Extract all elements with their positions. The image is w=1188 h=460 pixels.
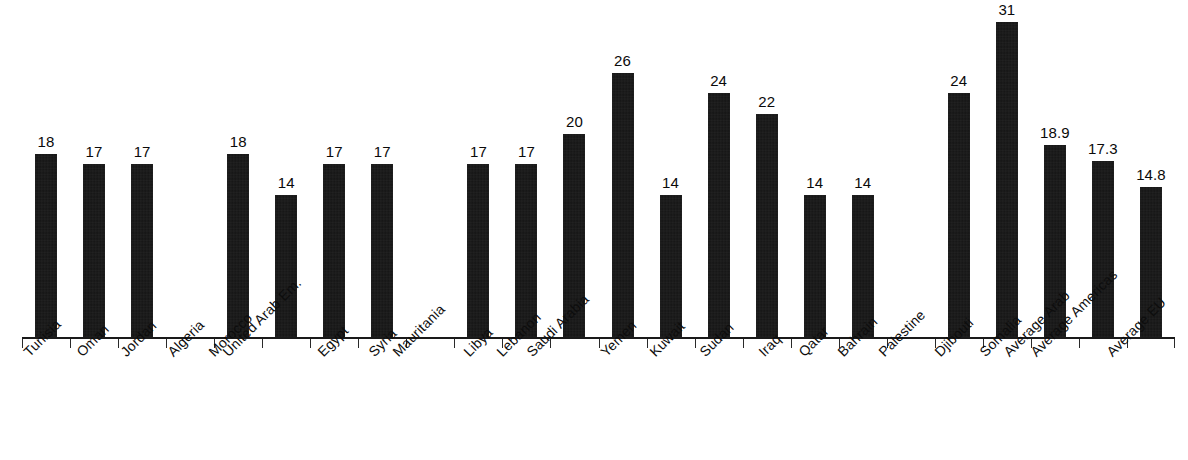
bar[interactable] [660, 195, 682, 337]
bar-value-label: 17 [86, 144, 103, 159]
bar-value-label: 24 [950, 73, 967, 88]
bar-slot: 17 [358, 0, 406, 337]
bar-value-label: 14 [662, 175, 679, 190]
bar[interactable] [996, 22, 1018, 337]
bar-value-label: 24 [710, 73, 727, 88]
axis-tick [695, 339, 696, 348]
bar[interactable] [323, 164, 345, 337]
bar-slot: 14 [647, 0, 695, 337]
bar[interactable] [1092, 161, 1114, 337]
bar-value-label: 18.9 [1040, 125, 1070, 140]
bar[interactable] [371, 164, 393, 337]
bar-value-label: 17 [134, 144, 151, 159]
bar-value-label: 26 [614, 53, 631, 68]
bar-slot: 24 [935, 0, 983, 337]
bar-slot: 14.8 [1127, 0, 1175, 337]
bar-slot: 17 [502, 0, 550, 337]
bar-value-label: 17 [326, 144, 343, 159]
bar-value-label: 14 [806, 175, 823, 190]
bar-chart: 18171718141717171720261424221414243118.9… [0, 0, 1188, 460]
axis-tick [358, 339, 359, 348]
bar[interactable] [612, 73, 634, 337]
axis-tick [454, 339, 455, 348]
axis-tick [791, 339, 792, 348]
bar[interactable] [467, 164, 489, 337]
bar-slot: 17 [118, 0, 166, 337]
axis-tick [1079, 339, 1080, 348]
bar-value-label: 22 [758, 94, 775, 109]
bar-value-label: 17 [518, 144, 535, 159]
axis-tick [262, 339, 263, 348]
bar-value-label: 14 [854, 175, 871, 190]
bar-value-label: 17 [374, 144, 391, 159]
bar-slot: 18 [22, 0, 70, 337]
axis-tick [1174, 339, 1175, 348]
bar-value-label: 14.8 [1136, 167, 1166, 182]
bar-slot-empty [887, 0, 935, 337]
bar-slot: 14 [791, 0, 839, 337]
bar-slot: 31 [983, 0, 1031, 337]
bar[interactable] [35, 154, 57, 337]
bar-slot: 17 [70, 0, 118, 337]
plot-area: 18171718141717171720261424221414243118.9… [22, 0, 1175, 337]
x-axis-category-labels: TunisiaOmanJordanAlgeriaMoroccoUnited Ar… [22, 349, 1175, 460]
bar-slot-empty [166, 0, 214, 337]
bar-value-label: 31 [998, 2, 1015, 17]
bar-value-label: 20 [566, 114, 583, 129]
bar[interactable] [708, 93, 730, 337]
bar-slot: 24 [695, 0, 743, 337]
bar-slot: 20 [550, 0, 598, 337]
bar[interactable] [756, 114, 778, 337]
bar[interactable] [227, 154, 249, 337]
bar[interactable] [275, 195, 297, 337]
bar[interactable] [948, 93, 970, 337]
bar-value-label: 14 [278, 175, 295, 190]
bar-slot: 18 [214, 0, 262, 337]
bar-value-label: 17 [470, 144, 487, 159]
axis-tick [743, 339, 744, 348]
bar-slot: 18.9 [1031, 0, 1079, 337]
bar-slot: 22 [743, 0, 791, 337]
bar-slot-empty [406, 0, 454, 337]
axis-tick [70, 339, 71, 348]
bar-value-label: 18 [230, 134, 247, 149]
bar[interactable] [131, 164, 153, 337]
bar[interactable] [804, 195, 826, 337]
bar-slot: 17 [454, 0, 502, 337]
bar-value-label: 18 [38, 134, 55, 149]
bar-value-label: 17.3 [1088, 141, 1118, 156]
bar[interactable] [83, 164, 105, 337]
bar-slot: 17 [310, 0, 358, 337]
bar-slot: 26 [599, 0, 647, 337]
bar-slot: 14 [839, 0, 887, 337]
axis-tick [310, 339, 311, 348]
